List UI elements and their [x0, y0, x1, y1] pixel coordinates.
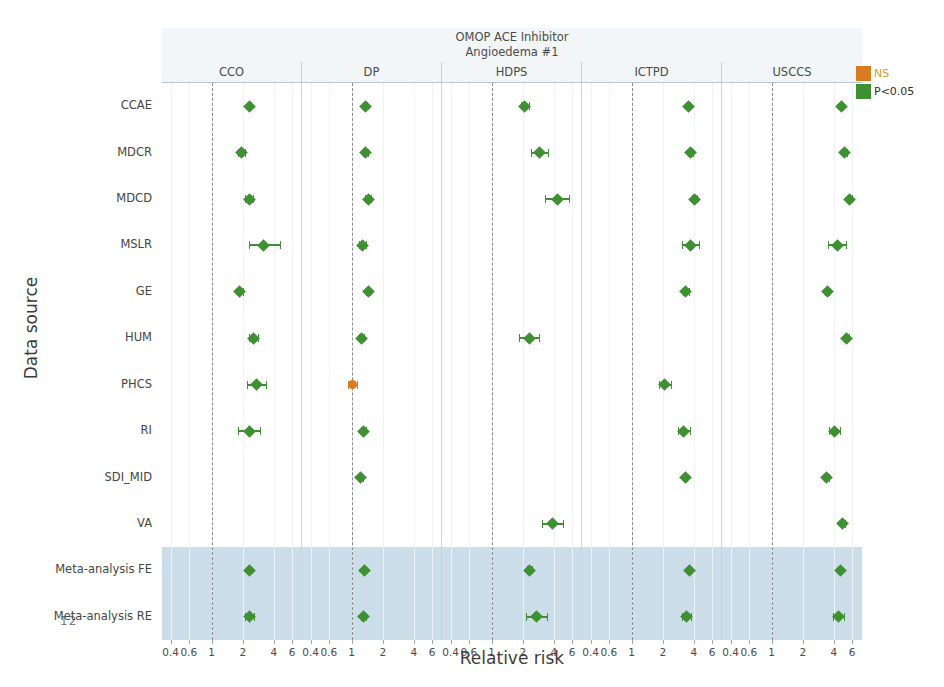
x-tick-mark [212, 640, 213, 644]
gridline [591, 83, 592, 640]
estimate-marker[interactable] [659, 378, 672, 391]
estimate-marker[interactable] [362, 193, 375, 206]
plot-title-line2: Angioedema #1 [162, 45, 862, 59]
facet-header-strip: CCODPHDPSICTPDUSCCS [162, 62, 862, 82]
x-tick-label: 0.6 [460, 646, 477, 658]
y-tick-label-ge: GE [136, 284, 152, 298]
ci-cap [828, 241, 829, 249]
ci-cap [545, 195, 546, 203]
estimate-marker[interactable] [546, 518, 559, 531]
estimate-marker[interactable] [243, 564, 256, 577]
x-tick-mark [352, 640, 353, 644]
x-tick-mark [523, 640, 524, 644]
facet-header-hdps: HDPS [442, 62, 582, 82]
legend-label-sig: P<0.05 [874, 85, 914, 98]
plot-title-strip: OMOP ACE Inhibitor Angioedema #1 [162, 28, 862, 62]
y-tick-label-va: VA [137, 516, 152, 530]
estimate-marker[interactable] [837, 518, 850, 531]
estimate-marker[interactable] [357, 425, 370, 438]
estimate-marker[interactable] [358, 564, 371, 577]
reference-line [492, 83, 493, 640]
estimate-marker[interactable] [677, 425, 690, 438]
gridline [451, 83, 452, 640]
estimate-marker[interactable] [551, 193, 564, 206]
estimate-marker[interactable] [679, 471, 692, 484]
gridline [243, 83, 244, 640]
ci-cap [671, 381, 672, 389]
ci-cap [260, 427, 261, 435]
estimate-marker[interactable] [820, 471, 833, 484]
x-tick-label: 6 [849, 646, 856, 658]
legend-swatch-sig [856, 84, 871, 99]
gridline [663, 83, 664, 640]
y-tick-label-ri: RI [141, 423, 152, 437]
forest-plot: OMOP ACE Inhibitor Angioedema #1 CCODPHD… [162, 28, 862, 616]
estimate-marker[interactable] [831, 239, 844, 252]
x-tick-label: 1 [208, 646, 215, 658]
x-tick-label: 0.4 [722, 646, 739, 658]
x-tick-mark [694, 640, 695, 644]
x-tick-label: 1 [488, 646, 495, 658]
x-tick-label: 2 [239, 646, 246, 658]
x-tick-label: 0.4 [582, 646, 599, 658]
gridline [852, 83, 853, 640]
x-tick-mark [469, 640, 470, 644]
estimate-marker[interactable] [523, 332, 536, 345]
estimate-marker[interactable] [348, 380, 357, 389]
estimate-marker[interactable] [244, 100, 257, 113]
estimate-marker[interactable] [685, 146, 698, 159]
x-tick-mark [852, 640, 853, 644]
gridline [834, 83, 835, 640]
estimate-marker[interactable] [680, 286, 693, 299]
x-tick-mark [383, 640, 384, 644]
estimate-marker[interactable] [843, 193, 856, 206]
ci-cap [266, 381, 267, 389]
legend: NS P<0.05 [856, 66, 942, 102]
estimate-marker[interactable] [356, 239, 369, 252]
estimate-marker[interactable] [838, 146, 851, 159]
facet-header-usccs: USCCS [722, 62, 862, 82]
gridline [292, 83, 293, 640]
estimate-marker[interactable] [840, 332, 853, 345]
estimate-marker[interactable] [835, 100, 848, 113]
estimate-marker[interactable] [688, 193, 701, 206]
estimate-marker[interactable] [357, 610, 370, 623]
x-tick-label: 0.4 [162, 646, 179, 658]
ci-cap [280, 241, 281, 249]
estimate-marker[interactable] [834, 564, 847, 577]
x-tick-label: 0.6 [600, 646, 617, 658]
x-tick-label: 0.4 [302, 646, 319, 658]
gridline [572, 83, 573, 640]
estimate-marker[interactable] [250, 378, 263, 391]
estimate-marker[interactable] [530, 610, 543, 623]
x-tick-label: 6 [569, 646, 576, 658]
estimate-marker[interactable] [244, 425, 257, 438]
x-axis-tick-labels: 0.40.612460.40.612460.40.612460.40.61246… [162, 646, 862, 662]
estimate-marker[interactable] [359, 100, 372, 113]
x-tick-label: 0.6 [180, 646, 197, 658]
estimate-marker[interactable] [355, 332, 368, 345]
y-tick-label-mdcd: MDCD [116, 191, 152, 205]
estimate-marker[interactable] [234, 286, 247, 299]
estimate-marker[interactable] [362, 286, 375, 299]
x-tick-mark [189, 640, 190, 644]
facet-header-ictpd: ICTPD [582, 62, 722, 82]
estimate-marker[interactable] [359, 146, 372, 159]
x-tick-mark [591, 640, 592, 644]
ci-cap [547, 613, 548, 621]
estimate-marker[interactable] [533, 146, 546, 159]
ci-cap [699, 241, 700, 249]
panel-dp [302, 83, 442, 640]
estimate-marker[interactable] [257, 239, 270, 252]
ci-cap [542, 520, 543, 528]
x-tick-label: 4 [830, 646, 837, 658]
ci-cap [238, 427, 239, 435]
x-tick-label: 2 [799, 646, 806, 658]
x-tick-mark [572, 640, 573, 644]
estimate-marker[interactable] [523, 564, 536, 577]
estimate-marker[interactable] [354, 471, 367, 484]
ci-cap [539, 334, 540, 342]
ci-cap [519, 334, 520, 342]
x-tick-mark [432, 640, 433, 644]
estimate-marker[interactable] [821, 286, 834, 299]
